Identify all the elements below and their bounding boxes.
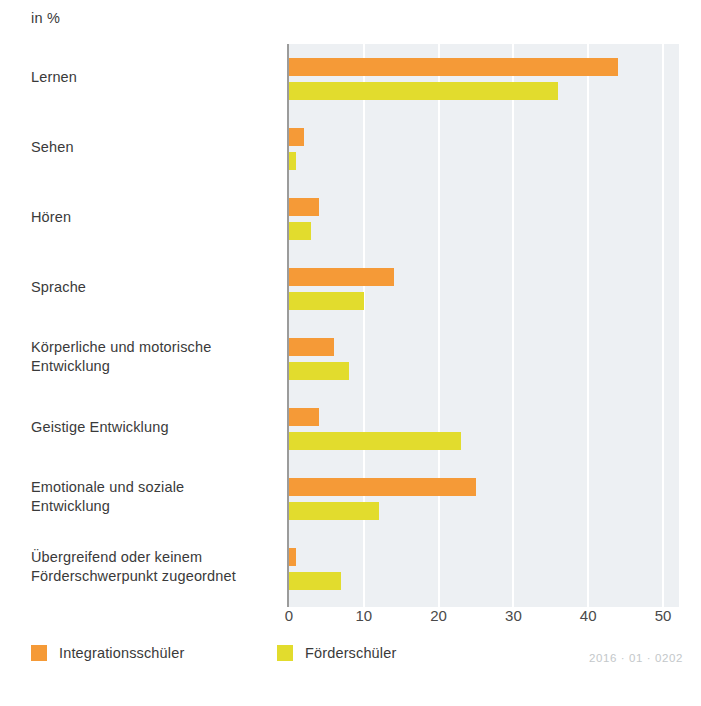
gridline	[363, 44, 365, 607]
bar	[289, 478, 476, 496]
bar	[289, 502, 379, 520]
bar-chart: LernenSehenHörenSpracheKörperliche und m…	[0, 44, 701, 607]
x-tick-label: 10	[334, 607, 394, 624]
bar	[289, 548, 296, 566]
x-tick-label: 0	[259, 607, 319, 624]
gridline	[662, 44, 664, 607]
bar	[289, 408, 319, 426]
legend-label: Förderschüler	[305, 645, 396, 661]
source-code-text: 2016 · 01 · 0202	[589, 652, 683, 664]
bar	[289, 572, 341, 590]
category-label: Körperliche und motorische Entwicklung	[31, 338, 281, 376]
bar	[289, 268, 394, 286]
bar	[289, 152, 296, 170]
legend-item-integrationsschueler[interactable]: Integrationsschüler	[31, 645, 184, 661]
y-axis-line	[287, 44, 289, 607]
category-label-column: LernenSehenHörenSpracheKörperliche und m…	[0, 44, 285, 607]
category-label: Emotionale und soziale Entwicklung	[31, 478, 281, 516]
x-tick-label: 40	[558, 607, 618, 624]
category-label: Lernen	[31, 68, 281, 87]
bar	[289, 362, 349, 380]
bar	[289, 432, 461, 450]
category-label: Geistige Entwicklung	[31, 418, 281, 437]
plot-area	[289, 44, 679, 607]
bar	[289, 58, 618, 76]
gridline	[587, 44, 589, 607]
bar	[289, 82, 558, 100]
bar	[289, 222, 311, 240]
bar	[289, 292, 364, 310]
x-tick-label: 20	[409, 607, 469, 624]
x-tick-label: 30	[483, 607, 543, 624]
legend-swatch-icon	[277, 645, 293, 661]
chart-subtitle: in %	[31, 10, 60, 26]
category-label: Übergreifend oder keinem Förderschwerpun…	[31, 548, 281, 586]
gridline	[512, 44, 514, 607]
category-label: Sprache	[31, 278, 281, 297]
bar	[289, 338, 334, 356]
category-label: Sehen	[31, 138, 281, 157]
x-tick-label: 50	[633, 607, 693, 624]
gridline	[438, 44, 440, 607]
legend-label: Integrationsschüler	[59, 645, 184, 661]
category-label: Hören	[31, 208, 281, 227]
bar	[289, 128, 304, 146]
legend-item-foerderschueler[interactable]: Förderschüler	[277, 645, 396, 661]
bar	[289, 198, 319, 216]
x-axis-ticks: 01020304050	[0, 607, 701, 633]
legend-swatch-icon	[31, 645, 47, 661]
